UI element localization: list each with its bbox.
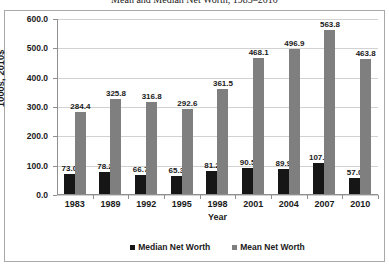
x-tick-label: 1989 [91,199,131,209]
bar: 361.5 [217,89,228,195]
bar-group: 57.0463.8 [342,19,378,195]
frame-border-bottom [4,261,385,262]
plot-area: 0.0100.0200.0300.0400.0500.0600.0 73.028… [57,19,378,195]
y-tick-label: 500.0 [2,43,48,53]
legend-item[interactable]: Median Net Worth [130,242,210,252]
bar-value-label: 325.8 [106,89,126,98]
bar-group: 81.2361.5 [200,19,236,195]
bar: 57.0 [349,178,360,195]
bar: 66.7 [135,175,146,195]
legend-swatch-icon [232,245,237,250]
x-tick-label: 1983 [55,199,95,209]
x-tick-label: 2010 [340,199,380,209]
bar: 284.4 [75,112,86,195]
bar-value-label: 316.8 [142,92,162,101]
x-tick-label: 1998 [198,199,238,209]
bar-group: 66.7316.8 [128,19,164,195]
x-tick-label: 2007 [305,199,345,209]
bar-value-label: 284.4 [70,102,90,111]
y-tick-label: 400.0 [2,73,48,83]
y-tick-mark [53,195,57,196]
bar: 107.8 [313,163,324,195]
y-tick-label: 0.0 [2,190,48,200]
chart-legend: Median Net WorthMean Net Worth [57,242,378,252]
legend-swatch-icon [130,245,135,250]
bar: 73.0 [64,174,75,195]
x-tick-label: 2001 [233,199,273,209]
bar-value-label: 563.8 [320,20,340,29]
bar: 463.8 [360,59,371,195]
bar-value-label: 468.1 [249,48,269,57]
bar-value-label: 361.5 [213,79,233,88]
bar-value-label: 463.8 [356,49,376,58]
bar-group: 89.9496.9 [271,19,307,195]
y-tick-label: 100.0 [2,161,48,171]
x-axis-line [57,194,378,195]
bar: 65.3 [171,176,182,195]
bar: 78.2 [99,172,110,195]
bar-group: 90.5468.1 [235,19,271,195]
bar: 468.1 [253,58,264,195]
bar: 325.8 [110,99,121,195]
bar: 496.9 [289,49,300,195]
chart-container: Mean and Median Net Worth, 1983–2010 100… [0,0,389,272]
legend-item[interactable]: Mean Net Worth [232,242,305,252]
y-tick-label: 200.0 [2,131,48,141]
y-tick-label: 300.0 [2,102,48,112]
x-axis-label: Year [57,212,378,222]
bar-group: 107.8563.8 [307,19,343,195]
bar: 89.9 [278,169,289,195]
bar-group: 65.3292.6 [164,19,200,195]
x-tick-label: 2004 [269,199,309,209]
y-tick-label: 600.0 [2,14,48,24]
frame-border-right [384,10,385,262]
bar: 316.8 [146,102,157,195]
legend-label: Median Net Worth [138,242,210,252]
legend-label: Mean Net Worth [240,242,305,252]
gridline [57,195,378,196]
x-tick-label: 1992 [126,199,166,209]
y-axis-line [57,19,58,195]
bar: 90.5 [242,168,253,195]
x-tick-label: 1995 [162,199,202,209]
bar-value-label: 496.9 [284,39,304,48]
bar: 292.6 [182,109,193,195]
bar-group: 73.0284.4 [57,19,93,195]
frame-border-top [4,10,385,11]
bar: 81.2 [206,171,217,195]
bar: 563.8 [324,30,335,195]
chart-title: Mean and Median Net Worth, 1983–2010 [0,0,389,5]
bar-group: 78.2325.8 [93,19,129,195]
bar-value-label: 292.6 [177,99,197,108]
